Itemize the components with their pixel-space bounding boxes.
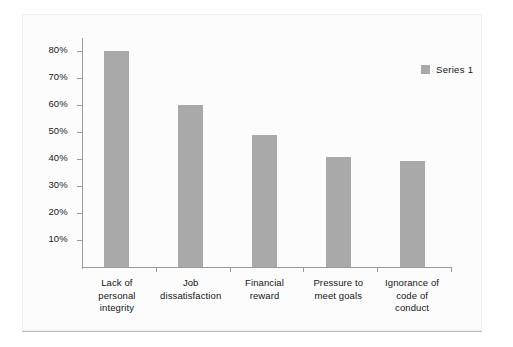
y-axis-tick-label: 70% (48, 71, 68, 82)
x-axis-category-label-line: conduct (375, 302, 449, 315)
y-axis-tick-label: 40% (48, 152, 68, 163)
chart-figure: Series 1 80%70%60%50%40%30%20%10% Lack o… (0, 0, 513, 347)
y-axis-tick-label: 80% (48, 44, 68, 55)
y-axis-tick-label: 30% (48, 179, 68, 190)
bar (104, 51, 129, 267)
x-axis-category-label-line: Ignorance of (375, 277, 449, 290)
x-axis-category-label-line: Job (154, 277, 228, 290)
x-axis-category-label-line: personal (80, 290, 154, 303)
x-axis-category-label-line: Financial (228, 277, 302, 290)
y-axis-tick-label: 10% (48, 233, 68, 244)
y-axis-tick-mark (77, 186, 82, 187)
y-axis-tick-mark (77, 159, 82, 160)
bar (252, 135, 277, 267)
bar (400, 161, 425, 267)
legend-swatch-series-1 (421, 65, 430, 74)
x-axis-category-label: Lack ofpersonalintegrity (80, 277, 154, 315)
y-axis-tick-label: 60% (48, 98, 68, 109)
x-axis-tick-mark (156, 267, 157, 272)
x-axis-tick-mark (377, 267, 378, 272)
x-axis-category-label-line: code of (375, 290, 449, 303)
x-axis-category-label: Financialreward (228, 277, 302, 302)
x-axis-tick-mark (451, 267, 452, 272)
x-axis-line (82, 267, 451, 268)
x-axis-category-label: Jobdissatisfaction (154, 277, 228, 302)
y-axis-tick-mark (77, 51, 82, 52)
x-axis-category-label-line: meet goals (301, 290, 375, 303)
x-axis-category-label: Ignorance ofcode ofconduct (375, 277, 449, 315)
x-axis-category-label: Pressure tomeet goals (301, 277, 375, 302)
legend-label-series-1: Series 1 (436, 64, 473, 75)
y-axis-tick-mark (77, 78, 82, 79)
x-axis-category-label-line: Pressure to (301, 277, 375, 290)
bar (326, 157, 351, 267)
y-axis-tick-mark (77, 213, 82, 214)
y-axis-tick-mark (77, 132, 82, 133)
x-axis-tick-mark (230, 267, 231, 272)
x-axis-category-label-line: Lack of (80, 277, 154, 290)
y-axis-tick-label: 50% (48, 125, 68, 136)
y-axis-tick-mark (77, 105, 82, 106)
x-axis-category-label-line: integrity (80, 302, 154, 315)
x-axis-category-label-line: reward (228, 290, 302, 303)
bar (178, 105, 203, 267)
x-axis-category-label-line: dissatisfaction (154, 290, 228, 303)
x-axis-tick-mark (303, 267, 304, 272)
chart-legend: Series 1 (421, 64, 473, 75)
y-axis-line (82, 38, 83, 269)
y-axis-tick-mark (77, 240, 82, 241)
y-axis-tick-label: 20% (48, 206, 68, 217)
